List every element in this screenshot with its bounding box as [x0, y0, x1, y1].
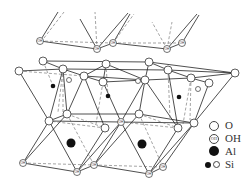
legend-label: OH — [225, 132, 241, 145]
si-filled-atoms — [51, 84, 182, 100]
legend-item-o: O — [203, 119, 252, 132]
small-filled-circle-icon — [205, 162, 211, 168]
svg-text:OH: OH — [75, 170, 80, 174]
legend-label: Si — [225, 158, 234, 171]
filled-circle-icon — [209, 146, 219, 156]
legend-item-si: Si — [203, 158, 252, 171]
svg-text:OH: OH — [95, 47, 100, 51]
legend-item-oh: OH OH — [203, 132, 252, 145]
svg-text:OH: OH — [92, 163, 97, 167]
small-open-circle-icon — [213, 161, 220, 168]
svg-text:OH: OH — [21, 161, 26, 165]
svg-text:OH: OH — [180, 41, 185, 45]
legend-label: O — [225, 119, 233, 132]
legend: O OH OH Al Si — [203, 119, 252, 171]
open-circle-icon — [209, 121, 219, 131]
legend-item-al: Al — [203, 145, 252, 158]
svg-text:OH: OH — [119, 120, 124, 124]
svg-text:OH: OH — [111, 41, 116, 45]
legend-label: Al — [225, 145, 236, 158]
svg-text:OH: OH — [165, 47, 170, 51]
svg-text:OH: OH — [38, 39, 43, 43]
svg-text:OH: OH — [147, 172, 152, 176]
hydroxyl-circle-icon: OH — [209, 134, 219, 144]
upper-layer-bonds — [40, 12, 199, 49]
svg-text:OH: OH — [161, 165, 166, 169]
